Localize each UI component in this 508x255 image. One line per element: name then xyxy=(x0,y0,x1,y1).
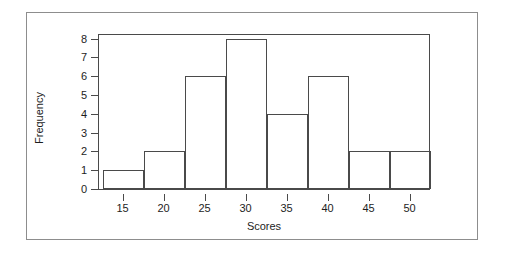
x-tick-mark xyxy=(410,194,411,201)
y-tick-label: 8 xyxy=(81,32,87,47)
plot-area xyxy=(98,34,430,190)
y-tick-label: 6 xyxy=(81,69,87,84)
y-tick-mark xyxy=(91,76,98,77)
x-tick-label: 25 xyxy=(191,202,219,214)
y-tick-label: 5 xyxy=(81,88,87,103)
x-tick-label: 30 xyxy=(232,202,260,214)
x-tick-mark xyxy=(246,194,247,201)
y-axis-title: Frequency xyxy=(33,73,45,163)
bars-layer xyxy=(99,35,429,189)
y-tick-label: 3 xyxy=(81,126,87,141)
histogram-figure: 012345678 Frequency 1520253035404550 Sco… xyxy=(0,0,508,255)
histogram-bar xyxy=(308,76,349,189)
y-tick-mark xyxy=(91,170,98,171)
x-axis: 1520253035404550 Scores xyxy=(0,190,508,240)
histogram-bar xyxy=(390,151,431,189)
y-tick-label: 4 xyxy=(81,107,87,122)
histogram-bar xyxy=(103,170,144,189)
x-tick-label: 35 xyxy=(273,202,301,214)
y-tick-mark xyxy=(91,39,98,40)
x-tick-mark xyxy=(205,194,206,201)
y-tick-mark xyxy=(91,151,98,152)
x-tick-label: 20 xyxy=(150,202,178,214)
y-tick-mark xyxy=(91,57,98,58)
histogram-bar xyxy=(349,151,390,189)
y-tick-mark xyxy=(91,95,98,96)
y-tick-mark xyxy=(91,114,98,115)
x-tick-mark xyxy=(287,194,288,201)
x-tick-mark xyxy=(123,194,124,201)
y-tick-label: 7 xyxy=(81,50,87,65)
x-axis-title: Scores xyxy=(98,220,430,232)
x-tick-label: 45 xyxy=(355,202,383,214)
x-tick-label: 15 xyxy=(109,202,137,214)
x-tick-mark xyxy=(369,194,370,201)
y-tick-label: 2 xyxy=(81,144,87,159)
x-tick-label: 40 xyxy=(314,202,342,214)
histogram-bar xyxy=(267,114,308,189)
histogram-bar xyxy=(144,151,185,189)
y-tick-label: 1 xyxy=(81,163,87,178)
x-tick-label: 50 xyxy=(396,202,424,214)
y-tick-mark xyxy=(91,133,98,134)
x-tick-mark xyxy=(164,194,165,201)
x-tick-mark xyxy=(328,194,329,201)
histogram-bar xyxy=(226,39,267,189)
histogram-bar xyxy=(185,76,226,189)
